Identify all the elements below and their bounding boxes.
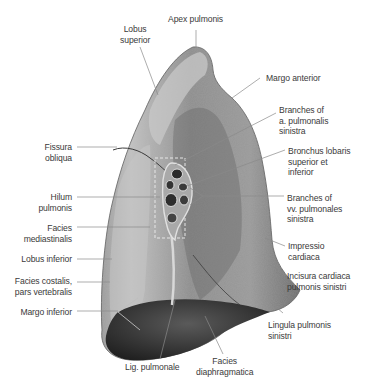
- label-lobus-inferior: Lobus inferior: [21, 254, 72, 265]
- label-incisura-cardiaca: Incisura cardiaca pulmonis sinistri: [287, 271, 350, 292]
- bronchus-superior: [179, 183, 188, 191]
- pulmonary-artery-branch: [172, 169, 183, 179]
- label-hilum-pulmonis: Hilum pulmonis: [38, 192, 72, 213]
- label-apex-pulmonis: Apex pulmonis: [168, 14, 223, 25]
- bronchus-inferior: [165, 194, 177, 207]
- diaphragmatic-surface: [106, 299, 270, 360]
- label-facies-costalis: Facies costalis, pars vertebralis: [15, 276, 72, 297]
- label-facies-diaphragmatica: Facies diaphragmatica: [196, 356, 253, 377]
- label-impressio-cardiaca: Impressio cardiaca: [288, 241, 324, 262]
- label-branches-vv-pulmonales: Branches of vv. pulmonales sinistra: [287, 193, 342, 225]
- label-margo-anterior: Margo anterior: [266, 73, 321, 84]
- label-lobus-superior: Lobus superior: [120, 24, 150, 45]
- label-fissura-obliqua: Fissura obliqua: [45, 142, 72, 163]
- label-branches-a-pulmonalis: Branches of a. pulmonalis sinistra: [279, 105, 328, 137]
- label-facies-mediastinalis: Facies mediastinalis: [24, 223, 72, 244]
- label-bronchus-lobaris: Bronchus lobaris superior et inferior: [288, 146, 350, 178]
- pulmonary-artery-branch-2: [166, 181, 174, 190]
- lung-body: [101, 47, 300, 360]
- label-lig-pulmonale: Lig. pulmonale: [125, 362, 180, 373]
- pulmonary-vein-inferior: [167, 213, 177, 223]
- pulmonary-vein-branch: [180, 195, 189, 205]
- label-margo-inferior: Margo inferior: [20, 307, 72, 318]
- label-lingula-pulmonis: Lingula pulmonis sinistri: [268, 320, 331, 341]
